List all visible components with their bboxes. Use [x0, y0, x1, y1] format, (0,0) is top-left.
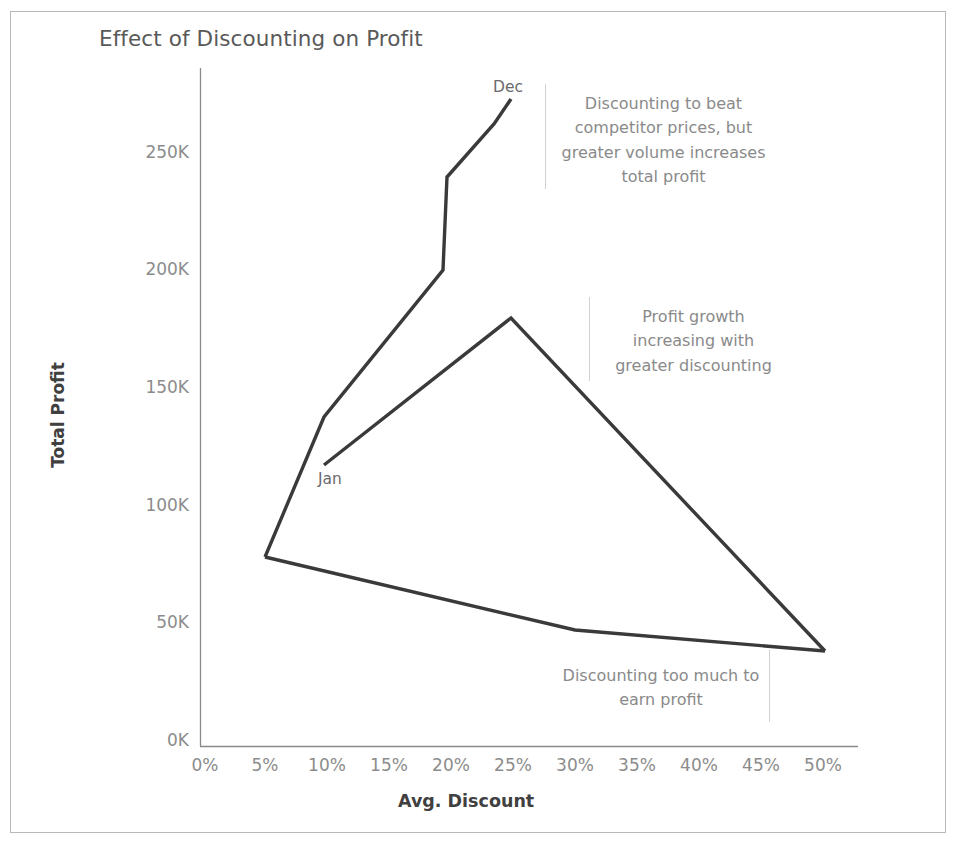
chart-page: Effect of Discounting on Profit 250K 200…	[0, 0, 958, 846]
x-tick-label: 10%	[297, 755, 357, 775]
x-tick-label: 25%	[483, 755, 543, 775]
annotation-rule	[545, 84, 546, 189]
annotation-rule	[769, 650, 770, 722]
x-tick-label: 15%	[359, 755, 419, 775]
data-point-label-jan: Jan	[318, 470, 342, 488]
series-bottom-path	[265, 557, 825, 651]
x-tick-label: 30%	[545, 755, 605, 775]
data-point-label-dec: Dec	[493, 78, 523, 96]
y-tick-label: 100K	[119, 495, 189, 515]
y-tick-label: 50K	[119, 612, 189, 632]
x-tick-label: 45%	[731, 755, 791, 775]
x-tick-label: 50%	[793, 755, 853, 775]
annotation-text: Discounting to beat competitor prices, b…	[556, 92, 771, 189]
plot-area	[0, 0, 958, 846]
x-tick-label: 5%	[235, 755, 295, 775]
annotation-text: Profit growth increasing with greater di…	[601, 305, 786, 378]
x-tick-label: 0%	[175, 755, 235, 775]
y-tick-label: 250K	[119, 142, 189, 162]
x-tick-label: 20%	[421, 755, 481, 775]
annotation-text: Discounting too much to earn profit	[561, 664, 761, 713]
y-tick-label: 150K	[119, 377, 189, 397]
y-axis-title: Total Profit	[48, 330, 68, 500]
y-tick-label: 0K	[119, 730, 189, 750]
x-tick-label: 40%	[669, 755, 729, 775]
x-axis-title: Avg. Discount	[398, 791, 534, 811]
y-tick-label: 200K	[119, 259, 189, 279]
series-upper-path	[265, 99, 511, 557]
annotation-rule	[589, 297, 590, 381]
x-tick-label: 35%	[607, 755, 667, 775]
